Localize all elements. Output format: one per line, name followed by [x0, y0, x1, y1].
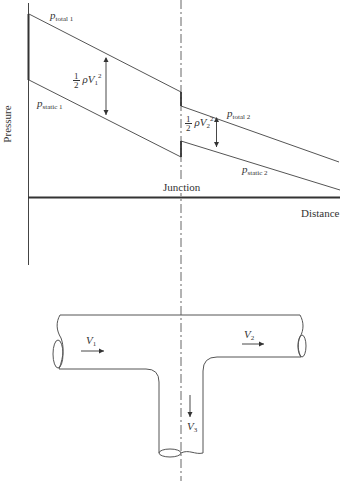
half-fraction: 12 [185, 115, 192, 132]
p-total-1-label: ptotal 1 [50, 9, 73, 23]
dynamic-pressure-1-label: 12ρV12 [73, 72, 102, 89]
p-static-2-label: pstatic 2 [242, 163, 268, 177]
p-total-1-line [29, 14, 181, 92]
v2-label: V2 [244, 328, 254, 342]
x-axis-label: Distance [301, 207, 339, 219]
y-axis-label: Pressure [1, 105, 13, 142]
p-total-2-label: ptotal 2 [227, 107, 250, 121]
v1-label: V1 [86, 334, 96, 348]
p-subscript: total 1 [56, 15, 74, 23]
junction-label: Junction [162, 181, 201, 193]
v3-label: V3 [187, 420, 197, 434]
diagram-canvas [0, 0, 349, 481]
p-static-1-line [29, 80, 181, 157]
p-subscript: total 2 [233, 113, 251, 121]
p-subscript: static 1 [43, 103, 63, 111]
dynamic-pressure-2-label: 12ρV22 [185, 115, 214, 132]
half-fraction: 12 [73, 72, 80, 89]
p-subscript: static 2 [248, 169, 268, 177]
p-static-1-label: pstatic 1 [37, 97, 63, 111]
